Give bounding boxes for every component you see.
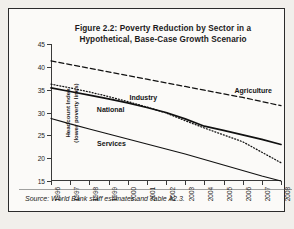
series-label-services: Services [97, 140, 126, 147]
y-tick-label: 15 [38, 178, 45, 185]
x-tick [109, 181, 110, 185]
y-tick-label: 35 [38, 86, 45, 93]
y-tick-label: 20 [38, 155, 45, 162]
series-line-industry [51, 84, 281, 163]
series-line-services [51, 118, 281, 181]
figure-title-line-1: Figure 2.2: Poverty Reduction by Sector … [43, 24, 283, 35]
x-tick [89, 181, 90, 185]
figure-page: Figure 2.2: Poverty Reduction by Sector … [0, 0, 294, 229]
y-tick-label: 45 [38, 41, 45, 48]
source-note: Source: World Bank staff estimates and T… [25, 195, 185, 202]
y-tick-label: 30 [38, 109, 45, 116]
figure-frame: Figure 2.2: Poverty Reduction by Sector … [8, 8, 285, 212]
source-divider [19, 189, 292, 190]
x-tick [224, 181, 225, 185]
x-tick [166, 181, 167, 185]
x-tick [51, 181, 52, 185]
x-tick [281, 181, 282, 185]
line-chart: Headcount Index (lower poverty lines) 15… [51, 44, 281, 181]
x-tick [243, 181, 244, 185]
series-label-industry: Industry [130, 94, 158, 101]
x-tick [204, 181, 205, 185]
y-tick-label: 25 [38, 132, 45, 139]
y-tick-label: 40 [38, 63, 45, 70]
figure-title: Figure 2.2: Poverty Reduction by Sector … [43, 24, 283, 45]
x-tick [185, 181, 186, 185]
series-line-agriculture [51, 61, 281, 106]
x-tick [262, 181, 263, 185]
x-tick [147, 181, 148, 185]
series-label-national: National [97, 106, 125, 113]
series-line-national [51, 88, 281, 145]
x-tick [70, 181, 71, 185]
x-tick [128, 181, 129, 185]
series-label-agriculture: Agriculture [235, 87, 272, 94]
series-lines [51, 44, 281, 181]
